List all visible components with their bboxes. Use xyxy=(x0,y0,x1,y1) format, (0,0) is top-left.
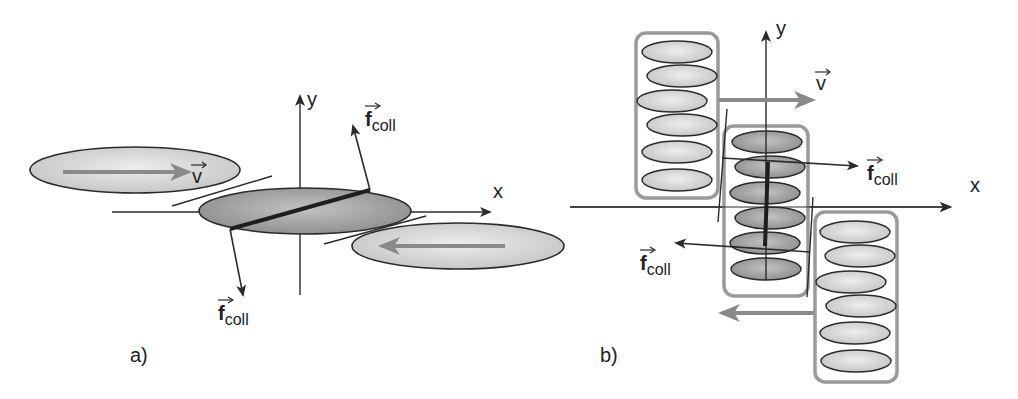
particle-ellipse xyxy=(642,169,712,191)
f-coll-text: fcoll xyxy=(365,108,396,134)
f-coll-text: fcoll xyxy=(640,252,671,278)
particle-ellipse xyxy=(816,271,886,293)
particle-ellipse xyxy=(642,141,712,163)
particle-ellipse xyxy=(820,221,890,243)
coll-subscript: coll xyxy=(372,117,396,134)
upper-left-cluster xyxy=(636,33,718,198)
v-letter: v xyxy=(192,165,202,187)
force-label-fcoll: fcoll xyxy=(218,297,249,328)
y-axis-label: y xyxy=(307,88,317,110)
x-axis-label: x xyxy=(970,174,980,196)
coll-subscript: coll xyxy=(225,311,249,328)
lower-right-cluster xyxy=(815,212,897,382)
collision-diagram: xyvfcollfcolla) xyvfcollfcollb) xyxy=(0,0,1018,399)
y-axis-label: y xyxy=(776,17,786,39)
force-arrow xyxy=(353,126,370,190)
particle-ellipse xyxy=(825,245,895,267)
coll-subscript: coll xyxy=(874,171,898,188)
force-label-fcoll: fcoll xyxy=(640,247,671,278)
vector-label-v: v xyxy=(815,69,830,94)
panel-b-label: b) xyxy=(600,344,618,366)
v-letter: v xyxy=(816,72,826,94)
particle-ellipse xyxy=(732,131,802,153)
particle-ellipse xyxy=(647,114,717,136)
particle-ellipse xyxy=(642,41,712,63)
particle-ellipse xyxy=(735,207,805,229)
force-arrow xyxy=(230,229,243,295)
particle-ellipse xyxy=(826,295,896,317)
particle-ellipse xyxy=(820,322,890,344)
panel-a: xyvfcollfcolla) xyxy=(30,88,564,366)
particle-ellipse xyxy=(637,90,707,112)
force-label-fcoll: fcoll xyxy=(365,103,396,134)
f-coll-text: fcoll xyxy=(867,162,898,188)
panel-a-label: a) xyxy=(130,344,148,366)
force-label-fcoll: fcoll xyxy=(867,157,898,188)
x-axis-label: x xyxy=(493,180,503,202)
particle-ellipse xyxy=(821,350,891,372)
particle-ellipse xyxy=(647,65,717,87)
panel-b: xyvfcollfcollb) xyxy=(570,17,980,382)
coll-subscript: coll xyxy=(647,261,671,278)
f-coll-text: fcoll xyxy=(218,302,249,328)
